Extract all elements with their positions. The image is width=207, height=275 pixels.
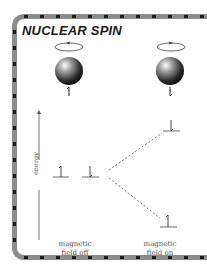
label-field-off-line1: magnetic [50,240,100,249]
label-field-on-line1: magnetic [135,240,185,249]
energy-axis [37,110,41,240]
energy-axis-label: energy [32,152,40,175]
nucleus-spin-up [55,42,83,97]
split-line-down [109,178,160,218]
nucleus-spin-down [156,42,185,97]
label-field-off: magnetic field off [50,240,100,258]
diagram-graphics [0,0,207,275]
label-field-on-line2: field on [135,249,185,258]
level-field-on-low [160,215,177,227]
nucleus-sphere-icon [156,57,184,85]
level-field-off-down [82,166,99,177]
rotation-arrow-icon [157,43,185,51]
split-line-up [109,133,162,170]
level-field-off-up [53,166,69,177]
level-field-on-high [163,120,180,131]
label-field-off-line2: field off [50,249,100,258]
label-field-on: magnetic field on [135,240,185,258]
nucleus-sphere-icon [55,57,83,85]
